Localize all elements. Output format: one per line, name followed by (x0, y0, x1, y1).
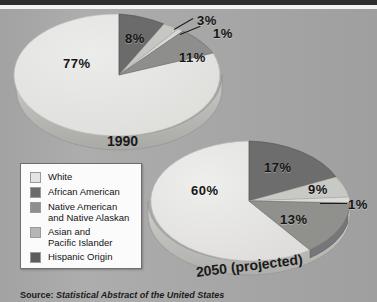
legend-item-african-american: African American (30, 186, 134, 198)
pie-1990-label-african-american: 8% (125, 31, 145, 46)
pie-2050-label-hispanic: 13% (280, 212, 308, 227)
source-prefix: Source: (20, 290, 54, 300)
legend-item-white: White (30, 171, 134, 183)
legend-label-native-american-line2: and Native Alaskan (48, 212, 129, 223)
pie-1990-slice-white (14, 14, 220, 136)
legend-label-asian-pacific-line1: Asian and (48, 226, 90, 237)
figure-panel: 77% 8% 3% 1% 11% 1990 (0, 0, 377, 302)
legend-swatch-african-american-icon (30, 187, 41, 198)
pie-1990-year-label: 1990 (107, 133, 138, 149)
legend-item-native-american: Native American and Native Alaskan (30, 201, 134, 223)
legend-swatch-hispanic-icon (30, 252, 41, 263)
source-note: Source: Statistical Abstract of the Unit… (20, 290, 224, 300)
legend-swatch-white-icon (30, 172, 41, 183)
leader-line-2050-1pct (320, 203, 347, 204)
legend-swatch-native-american-icon (30, 202, 41, 213)
legend-label-white: White (48, 171, 72, 182)
legend-label-asian-pacific-line2: Pacific Islander (48, 237, 112, 248)
pie-2050-label-asian-pacific: 1% (348, 197, 368, 212)
pie-2050-label-native-american: 9% (308, 182, 328, 197)
legend-label-african-american: African American (48, 186, 120, 197)
legend-label-native-american-line1: Native American (48, 201, 117, 212)
source-text: Statistical Abstract of the United State… (56, 290, 224, 300)
pie-1990-label-hispanic: 11% (179, 50, 206, 65)
legend-item-asian-pacific: Asian and Pacific Islander (30, 226, 134, 248)
legend-item-hispanic: Hispanic Origin (30, 251, 134, 263)
legend-swatch-asian-pacific-icon (30, 227, 41, 238)
legend-label-hispanic: Hispanic Origin (48, 251, 112, 262)
pie-1990-label-white: 77% (63, 56, 91, 71)
pie-2050-label-african-american: 17% (264, 160, 292, 175)
pie-1990-label-asian-pacific: 1% (213, 26, 233, 41)
pie-2050-label-white: 60% (191, 183, 219, 198)
plot-area: 77% 8% 3% 1% 11% 1990 (0, 9, 377, 302)
legend-box: White African American Native American a… (20, 163, 142, 269)
